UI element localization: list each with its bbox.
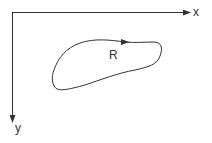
y-axis-label: y	[15, 121, 21, 135]
direction-arrow-icon	[121, 39, 129, 45]
region-label: R	[109, 48, 118, 62]
region-boundary-curve	[52, 40, 161, 90]
coordinate-diagram: x y R	[0, 0, 212, 143]
x-axis-label: x	[193, 5, 199, 19]
